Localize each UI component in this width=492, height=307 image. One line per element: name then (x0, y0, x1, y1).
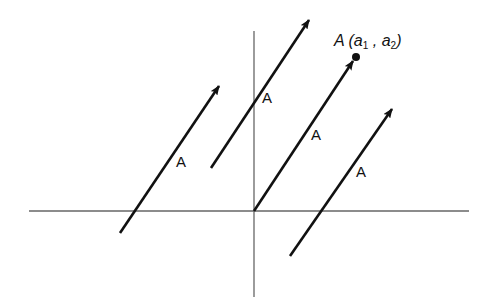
vector-label-2: A (262, 89, 272, 106)
vector-label-4: A (356, 163, 366, 180)
vector-label-1: A (176, 153, 186, 170)
vector-arrow-2 (211, 20, 309, 168)
vector-label-3: A (311, 126, 321, 143)
point-a-label: A (a1 , a2) (333, 32, 401, 51)
point-a (352, 53, 360, 61)
vector-diagram: AAAA A (a1 , a2) (0, 0, 492, 307)
